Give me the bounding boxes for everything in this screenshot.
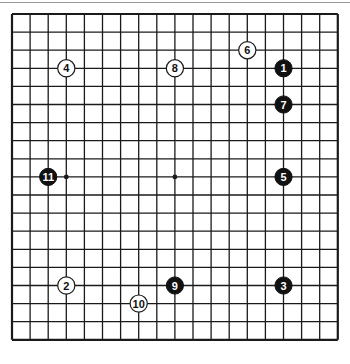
black-stone: 11: [40, 168, 57, 185]
move-number: 10: [133, 298, 145, 310]
white-stone: 2: [58, 277, 75, 294]
move-number: 3: [280, 280, 286, 292]
white-stone: 6: [239, 42, 256, 59]
white-stone: 8: [166, 60, 183, 77]
move-number: 5: [280, 171, 286, 183]
black-stone: 3: [275, 277, 292, 294]
white-stone: 4: [58, 60, 75, 77]
move-number: 1: [280, 62, 286, 74]
hoshi-point: [64, 175, 69, 180]
move-number: 8: [172, 62, 178, 74]
go-board: 1234567891011: [0, 0, 350, 364]
hoshi-point: [173, 175, 178, 180]
black-stone: 1: [275, 60, 292, 77]
move-number: 7: [280, 99, 286, 111]
black-stone: 7: [275, 96, 292, 113]
black-stone: 9: [166, 277, 183, 294]
move-number: 11: [42, 171, 54, 183]
move-number: 9: [172, 280, 178, 292]
white-stone: 10: [130, 295, 147, 312]
black-stone: 5: [275, 168, 292, 185]
move-number: 4: [63, 62, 70, 74]
move-number: 6: [244, 44, 250, 56]
move-number: 2: [63, 280, 69, 292]
